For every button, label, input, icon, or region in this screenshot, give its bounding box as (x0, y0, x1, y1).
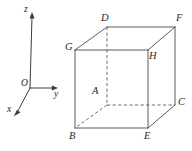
cube-edge-AB (75, 105, 107, 128)
cube-solid-edges (75, 27, 175, 128)
cube-edge-DG (75, 27, 107, 50)
geometry-figure: O x y z A B C D E F G H (0, 0, 192, 151)
x-axis-line (17, 88, 30, 112)
coordinate-axes (14, 12, 58, 116)
cube-vertex-label-D: D (101, 13, 109, 24)
cube-vertex-label-B: B (69, 131, 75, 142)
figure-canvas (0, 0, 192, 151)
cube-vertex-label-C: C (178, 97, 185, 108)
axis-label-y: y (54, 90, 58, 100)
axis-label-z: z (24, 5, 28, 15)
cube-hidden-edges (75, 27, 175, 128)
z-axis-line (30, 17, 32, 88)
cube-vertex-label-F: F (176, 13, 182, 24)
cube-vertex-label-G: G (65, 42, 73, 53)
cube-edge-FH (148, 27, 175, 50)
x-axis-arrowhead (14, 110, 21, 116)
z-axis-arrowhead (30, 12, 35, 18)
cube-vertex-label-H: H (149, 51, 157, 62)
axis-label-x: x (7, 105, 11, 115)
axis-label-origin: O (21, 79, 28, 89)
cube-vertex-label-E: E (144, 131, 150, 142)
cube-edge-CE (148, 105, 175, 128)
cube-vertex-label-A: A (92, 86, 98, 97)
